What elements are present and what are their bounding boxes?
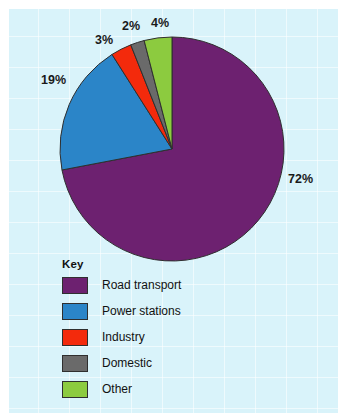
legend: Key Road transport Power stations Indust… [62, 258, 262, 406]
legend-swatch-road-transport [62, 277, 88, 294]
legend-swatch-industry [62, 329, 88, 346]
data-label-other: 4% [151, 16, 169, 30]
data-label-domestic: 2% [122, 19, 140, 33]
legend-item-domestic: Domestic [62, 354, 262, 373]
pie-chart-figure: 72% 19% 3% 2% 4% Key Road transport Powe… [0, 0, 347, 419]
legend-item-road-transport: Road transport [62, 276, 262, 295]
legend-title: Key [62, 258, 262, 270]
data-label-road-transport: 72% [288, 172, 313, 186]
legend-item-power-stations: Power stations [62, 302, 262, 321]
legend-label-power-stations: Power stations [102, 303, 181, 320]
legend-item-industry: Industry [62, 328, 262, 347]
legend-item-other: Other [62, 380, 262, 399]
legend-label-other: Other [102, 381, 132, 398]
legend-swatch-power-stations [62, 303, 88, 320]
legend-swatch-other [62, 381, 88, 398]
data-label-power-stations: 19% [41, 73, 66, 87]
legend-label-road-transport: Road transport [102, 277, 181, 294]
data-label-industry: 3% [95, 33, 113, 47]
legend-label-industry: Industry [102, 329, 145, 346]
legend-swatch-domestic [62, 355, 88, 372]
pie-slices-group [60, 37, 284, 261]
legend-label-domestic: Domestic [102, 355, 152, 372]
